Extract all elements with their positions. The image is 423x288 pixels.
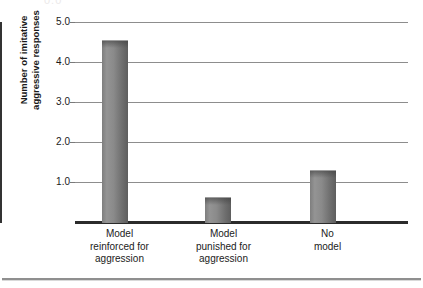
x-category-label-line: punished for	[166, 241, 281, 254]
x-category-label-line: model	[270, 241, 385, 254]
x-category-label-model-reinforced: Model reinforced for aggression	[62, 228, 177, 266]
bar-model-punished[interactable]	[205, 197, 231, 223]
plot-area	[75, 22, 408, 222]
x-category-label-no-model: No model	[270, 228, 385, 253]
x-category-label-line: No	[270, 228, 385, 241]
x-category-label-line: Model	[62, 228, 177, 241]
y-axis-line	[0, 22, 2, 223]
bar-top-shading	[310, 171, 336, 178]
bar-model-reinforced[interactable]	[102, 40, 128, 223]
bar-chart-figure: 0.0 Number of imitative aggressive respo…	[0, 0, 423, 288]
y-axis-title-line-1: Number of imitative	[18, 16, 30, 105]
y-tick-label-3: 3.0	[40, 96, 70, 107]
y-tick-label-4: 4.0	[40, 56, 70, 67]
bottom-divider-highlight	[2, 280, 421, 281]
y-tick-label-1: 1.0	[40, 176, 70, 187]
x-category-label-model-punished: Model punished for aggression	[166, 228, 281, 266]
bar-no-model[interactable]	[310, 170, 336, 223]
x-category-label-line: reinforced for	[62, 241, 177, 254]
x-category-label-line: aggression	[62, 253, 177, 266]
bar-top-shading	[205, 198, 231, 205]
bar-top-shading	[102, 41, 128, 48]
y-tick-label-2: 2.0	[40, 136, 70, 147]
x-category-label-line: Model	[166, 228, 281, 241]
gridline-5	[75, 22, 408, 23]
x-category-label-line: aggression	[166, 253, 281, 266]
y-tick-label-5: 5.0	[40, 16, 70, 27]
